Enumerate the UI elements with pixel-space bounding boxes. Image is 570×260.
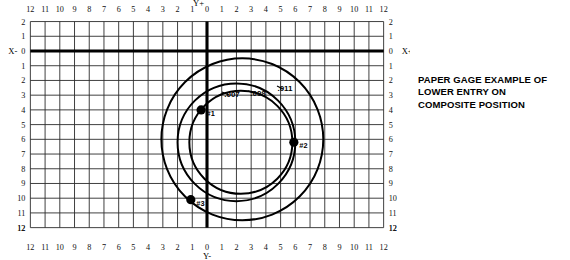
- tick-label-top: 12: [26, 5, 34, 14]
- data-point-marker-3: [186, 195, 195, 204]
- tick-label-left: 2: [21, 76, 25, 85]
- tick-label-bottom: 8: [87, 243, 91, 252]
- tick-label-bottom: 6: [293, 243, 297, 252]
- tick-labels-left: 210123456789101112: [17, 18, 25, 233]
- tick-label-left: 5: [21, 121, 25, 130]
- tick-label-right: 9: [389, 179, 393, 188]
- tick-label-top: 3: [249, 5, 253, 14]
- tick-label-top: 10: [350, 5, 358, 14]
- tick-label-bottom: 10: [350, 243, 358, 252]
- tick-label-top: 6: [117, 5, 121, 14]
- tick-label-bottom: 10: [56, 243, 64, 252]
- tick-label-top: 10: [56, 5, 64, 14]
- caption-block: PAPER GAGE EXAMPLE OF LOWER ENTRY ON COM…: [418, 74, 568, 111]
- tick-label-bottom: 8: [323, 243, 327, 252]
- tick-label-right: 5: [389, 121, 393, 130]
- caption-line-1: PAPER GAGE EXAMPLE OF: [418, 74, 568, 86]
- tick-label-left: 7: [21, 150, 25, 159]
- tick-labels-top: 1211109876543210123456789101112: [26, 5, 387, 14]
- ring-label-011: .011: [277, 84, 293, 93]
- tick-label-bottom: 12: [26, 243, 34, 252]
- tick-label-bottom: 12: [380, 243, 388, 252]
- tick-label-bottom: 5: [131, 243, 135, 252]
- tick-label-top: 6: [293, 5, 297, 14]
- tick-label-right: 6: [389, 135, 393, 144]
- tick-label-bottom: 4: [146, 243, 150, 252]
- tick-label-top: 12: [380, 5, 388, 14]
- tick-label-right: 8: [389, 165, 393, 174]
- tick-label-left: 1: [21, 32, 25, 41]
- axis-label-y-negative: Y-: [203, 251, 211, 260]
- tick-label-bottom: 11: [365, 243, 373, 252]
- tick-label-right: 2: [389, 76, 393, 85]
- tick-label-right: 0: [389, 47, 393, 56]
- tick-label-bottom: 3: [161, 243, 165, 252]
- axis-name-labels: Y+Y-X-X+: [8, 0, 410, 260]
- tick-label-top: 9: [72, 5, 76, 14]
- tick-label-top: 0: [205, 5, 209, 14]
- caption-line-2: LOWER ENTRY ON: [418, 86, 568, 98]
- ring-label-008: .008: [250, 89, 266, 98]
- paper-gage-figure: .007.008.011#1#2#31211109876543210123456…: [0, 0, 410, 260]
- tick-label-left: 1: [21, 62, 25, 71]
- tick-label-right: 10: [389, 194, 397, 203]
- tick-label-top: 11: [365, 5, 373, 14]
- tick-label-left: 0: [21, 47, 25, 56]
- tick-label-left: 10: [17, 194, 25, 203]
- data-point-label-2: #2: [299, 141, 307, 150]
- tick-label-top: 11: [41, 5, 49, 14]
- tick-label-left: 6: [21, 135, 25, 144]
- caption-line-3: COMPOSITE POSITION: [418, 99, 568, 111]
- polar-grid-chart: .007.008.011#1#2#31211109876543210123456…: [0, 0, 410, 260]
- corner-tick-right: 12: [389, 224, 397, 233]
- tick-label-left: 11: [17, 209, 25, 218]
- tick-label-top: 4: [264, 5, 268, 14]
- tick-label-top: 2: [176, 5, 180, 14]
- tick-label-left: 9: [21, 179, 25, 188]
- tick-label-bottom: 6: [117, 243, 121, 252]
- tolerance-circle-007: [189, 91, 292, 194]
- tick-label-left: 4: [21, 106, 25, 115]
- tick-label-bottom: 9: [337, 243, 341, 252]
- data-point-label-3: #3: [196, 199, 204, 208]
- tick-label-right: 11: [389, 209, 397, 218]
- tick-label-left: 8: [21, 165, 25, 174]
- tick-labels-right: 210123456789101112: [389, 18, 397, 233]
- tick-label-top: 8: [323, 5, 327, 14]
- tick-label-right: 2: [389, 18, 393, 27]
- data-point-label-1: #1: [207, 109, 215, 118]
- axis-label-x-negative: X-: [8, 46, 17, 56]
- tick-label-bottom: 4: [264, 243, 268, 252]
- tick-label-right: 7: [389, 150, 393, 159]
- tick-label-top: 7: [308, 5, 312, 14]
- tick-label-top: 9: [337, 5, 341, 14]
- data-point-marker-2: [289, 138, 298, 147]
- tick-label-bottom: 7: [308, 243, 312, 252]
- tick-label-top: 7: [102, 5, 106, 14]
- tick-label-bottom: 3: [249, 243, 253, 252]
- axis-label-y-positive: Y+: [193, 0, 204, 8]
- tick-label-bottom: 1: [220, 243, 224, 252]
- tick-label-right: 4: [389, 106, 393, 115]
- tick-label-bottom: 2: [176, 243, 180, 252]
- tick-label-top: 5: [279, 5, 283, 14]
- tick-label-top: 4: [146, 5, 150, 14]
- tick-label-bottom: 2: [234, 243, 238, 252]
- ring-label-007: .007: [224, 90, 240, 99]
- tick-label-left: 3: [21, 91, 25, 100]
- tick-label-bottom: 1: [190, 243, 194, 252]
- tick-label-left: 2: [21, 18, 25, 27]
- tick-label-top: 2: [234, 5, 238, 14]
- tick-label-top: 5: [131, 5, 135, 14]
- tick-label-top: 1: [220, 5, 224, 14]
- data-point-marker-1: [197, 105, 206, 114]
- tick-label-bottom: 5: [279, 243, 283, 252]
- corner-tick-left: 12: [17, 224, 25, 233]
- tick-label-top: 8: [87, 5, 91, 14]
- tick-label-top: 3: [161, 5, 165, 14]
- tick-label-right: 3: [389, 91, 393, 100]
- tick-label-bottom: 7: [102, 243, 106, 252]
- tick-label-right: 1: [389, 62, 393, 71]
- axis-label-x-positive: X+: [402, 46, 410, 56]
- tick-label-bottom: 9: [72, 243, 76, 252]
